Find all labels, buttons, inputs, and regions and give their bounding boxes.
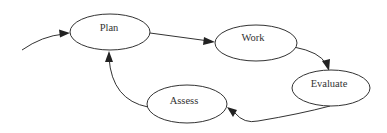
node-work-label: Work (241, 32, 265, 43)
node-evaluate-label: Evaluate (311, 78, 348, 89)
arrowhead-icon (203, 37, 215, 45)
edge-plan-to-work (150, 33, 215, 45)
plan-work-evaluate-assess-cycle-diagram: Plan Work Evaluate Assess (0, 0, 387, 133)
node-work: Work (215, 25, 297, 61)
edge-evaluate-to-assess (227, 106, 330, 122)
node-work-shape (215, 25, 297, 61)
node-assess: Assess (147, 85, 227, 123)
arrowhead-icon (59, 30, 70, 38)
arrowhead-icon (322, 59, 330, 71)
edge-assess-to-plan (105, 51, 148, 107)
edge-work-to-evaluate (294, 47, 330, 71)
node-plan-label: Plan (100, 22, 119, 33)
node-plan: Plan (70, 14, 150, 50)
node-evaluate: Evaluate (292, 70, 370, 106)
arrowhead-icon (105, 51, 113, 62)
edge-entry-to-plan (22, 30, 70, 51)
node-assess-label: Assess (170, 95, 199, 106)
arrowhead-icon (227, 107, 237, 117)
